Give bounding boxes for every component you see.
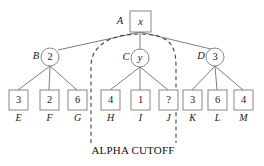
node-f-value: 2 bbox=[47, 94, 52, 105]
node-m: 4 M bbox=[234, 90, 253, 123]
node-e-value: 3 bbox=[16, 94, 21, 105]
node-c-value: y bbox=[137, 52, 143, 63]
node-g-label: G bbox=[74, 112, 81, 123]
node-a-value: x bbox=[137, 16, 143, 27]
edges-level-0 bbox=[58, 32, 215, 50]
node-b: 2 B bbox=[33, 48, 59, 66]
node-f: 2 F bbox=[40, 90, 59, 123]
node-d-value: 3 bbox=[212, 51, 217, 62]
node-g: 6 G bbox=[68, 90, 87, 123]
edge-b-f bbox=[49, 66, 50, 90]
game-tree-diagram: x A 2 B y C 3 D 3 E 2 bbox=[0, 0, 264, 166]
node-b-tag: B bbox=[33, 50, 40, 61]
edges-node-c bbox=[110, 67, 168, 90]
node-i-label: I bbox=[138, 112, 143, 123]
edge-c-j bbox=[140, 67, 168, 90]
node-i: 1 I bbox=[131, 90, 150, 123]
node-l: 6 L bbox=[208, 90, 227, 123]
node-l-value: 6 bbox=[215, 94, 220, 105]
node-h: 4 H bbox=[101, 90, 120, 123]
node-j: ? J bbox=[159, 90, 178, 123]
figure-caption: ALPHA CUTOFF bbox=[91, 144, 174, 156]
alpha-cutoff-figure: x A 2 B y C 3 D 3 E 2 bbox=[0, 0, 264, 166]
node-j-value: ? bbox=[166, 94, 171, 105]
edge-b-g bbox=[50, 66, 77, 90]
node-k: 3 K bbox=[183, 90, 202, 123]
node-i-value: 1 bbox=[138, 94, 143, 105]
edge-d-l bbox=[215, 66, 217, 90]
node-b-value: 2 bbox=[47, 51, 52, 62]
node-k-value: 3 bbox=[190, 94, 195, 105]
node-c: y C bbox=[122, 49, 149, 67]
edge-d-m bbox=[215, 66, 243, 90]
node-j-label: J bbox=[166, 112, 171, 123]
node-d: 3 D bbox=[196, 48, 224, 66]
node-m-value: 4 bbox=[241, 94, 247, 105]
node-g-value: 6 bbox=[75, 94, 80, 105]
node-l-label: L bbox=[214, 112, 221, 123]
edge-c-h bbox=[110, 67, 140, 90]
node-d-tag: D bbox=[196, 50, 205, 61]
node-h-value: 4 bbox=[108, 94, 114, 105]
node-c-tag: C bbox=[122, 51, 130, 62]
edges-node-b bbox=[18, 66, 77, 90]
node-h-label: H bbox=[106, 112, 115, 123]
node-e-label: E bbox=[14, 112, 21, 123]
node-a-tag: A bbox=[116, 15, 124, 26]
node-e: 3 E bbox=[9, 90, 28, 123]
node-k-label: K bbox=[188, 112, 197, 123]
edges-node-d bbox=[192, 66, 243, 90]
alpha-cutoff-boundary bbox=[91, 34, 176, 143]
edge-b-e bbox=[18, 66, 50, 90]
edge-d-k bbox=[192, 66, 215, 90]
node-f-label: F bbox=[45, 112, 53, 123]
node-m-label: M bbox=[238, 112, 248, 123]
node-a: x A bbox=[116, 11, 151, 32]
